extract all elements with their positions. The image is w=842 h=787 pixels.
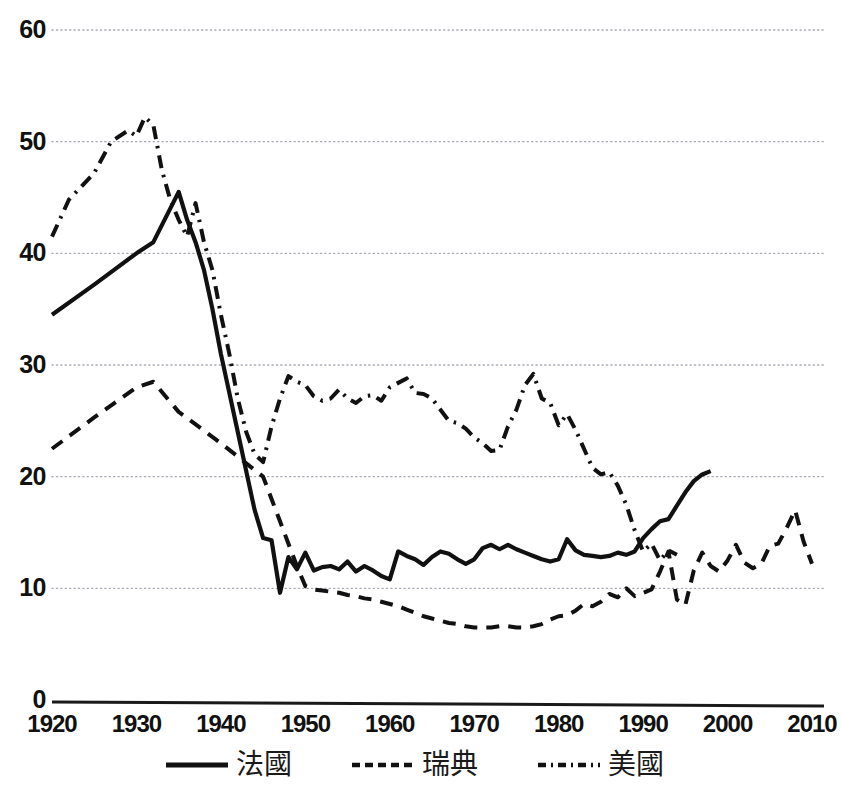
legend-label: 法國: [236, 751, 292, 779]
series-group: [52, 117, 812, 627]
series-line-3: [52, 117, 677, 560]
y-axis-tick-label: 30: [0, 350, 46, 379]
x-axis-tick-label: 2000: [688, 710, 768, 738]
legend-line-swatch: [350, 758, 416, 772]
legend-label: 美國: [608, 751, 664, 779]
chart-legend: 法國瑞典美國: [0, 742, 827, 787]
x-axis-line: [52, 702, 824, 706]
x-axis-tick-label: 1970: [434, 710, 514, 738]
x-axis-tick-label: 1940: [181, 710, 261, 738]
y-axis-tick-label: 20: [0, 462, 46, 491]
axis-baseline: [52, 702, 824, 706]
legend-line-swatch: [536, 758, 602, 772]
x-axis-tick-label: 1980: [519, 710, 599, 738]
x-axis-tick-label: 1930: [96, 710, 176, 738]
y-axis-tick-label: 50: [0, 127, 46, 156]
legend-item-3[interactable]: 美國: [536, 751, 664, 779]
y-axis-tick-label: 10: [0, 573, 46, 602]
y-axis-tick-label: 60: [0, 15, 46, 44]
legend-line-swatch: [164, 758, 230, 772]
legend-item-2[interactable]: 瑞典: [350, 751, 478, 779]
x-axis-tick-label: 1960: [350, 710, 430, 738]
y-axis-tick-label: 40: [0, 238, 46, 267]
x-axis-tick-label: 2010: [772, 710, 842, 738]
x-axis-tick-label: 1950: [265, 710, 345, 738]
x-axis-tick-label: 1920: [12, 710, 92, 738]
series-line-2: [52, 382, 812, 628]
legend-item-1[interactable]: 法國: [164, 751, 292, 779]
legend-label: 瑞典: [422, 751, 478, 779]
gridlines-group: [52, 30, 824, 588]
x-axis-tick-label: 1990: [603, 710, 683, 738]
series-line-1: [52, 192, 711, 593]
